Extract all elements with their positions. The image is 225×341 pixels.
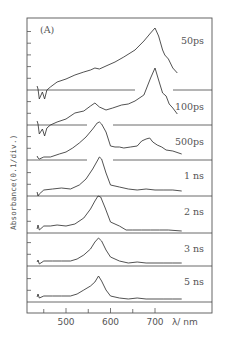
spectrum-500ps	[37, 122, 182, 159]
spectra-curves	[37, 28, 182, 299]
x-axis-label: λ/ nm	[172, 317, 198, 327]
y-axis-ticks	[27, 32, 31, 291]
series-label: 1 ns	[184, 170, 204, 181]
spectrum-50ps	[37, 28, 177, 99]
series-label: 50ps	[181, 35, 204, 46]
series-label: 3 ns	[184, 243, 204, 254]
x-tick-label: 600	[102, 317, 119, 327]
plot-frame	[27, 18, 212, 313]
series-labels: 50ps100ps500ps1 ns2 ns3 ns5 ns	[175, 35, 204, 287]
x-axis-ticks: 500600700	[44, 308, 164, 327]
spectrum-100ps	[37, 68, 177, 136]
spectrum-1ns	[37, 157, 182, 196]
series-label: 2 ns	[184, 206, 204, 217]
series-label: 500ps	[175, 136, 204, 147]
series-label: 5 ns	[184, 276, 204, 287]
spectrum-2ns	[37, 196, 182, 231]
spectrum-3ns	[37, 238, 182, 264]
panel-label: (A)	[40, 24, 54, 35]
x-tick-label: 700	[146, 317, 163, 327]
series-label: 100ps	[175, 101, 204, 112]
y-axis-label: Absorbance(0.1/div.)	[9, 135, 18, 230]
x-tick-label: 500	[57, 317, 74, 327]
transient-absorption-chart: 50ps100ps500ps1 ns2 ns3 ns5 ns 500600700…	[0, 0, 225, 341]
spectrum-5ns	[37, 276, 182, 299]
panel-baselines	[27, 90, 212, 302]
